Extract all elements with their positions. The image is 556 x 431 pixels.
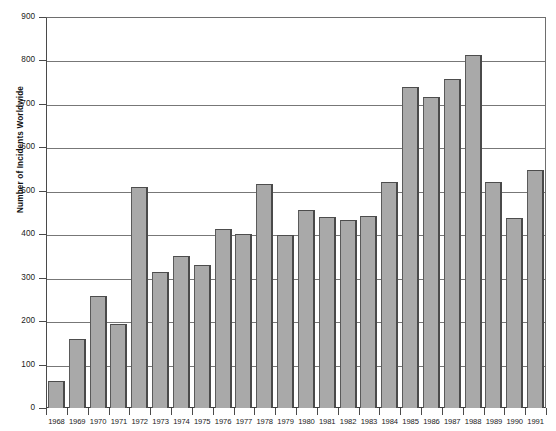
x-axis-tick-mark xyxy=(67,408,68,415)
bar-1973 xyxy=(152,272,169,408)
x-axis-tick-mark xyxy=(150,408,151,415)
y-axis-tick-mark xyxy=(39,408,46,409)
x-axis-tick-mark xyxy=(192,408,193,415)
bar-1989 xyxy=(485,182,502,408)
bar-1968 xyxy=(48,381,65,408)
bar-1979 xyxy=(277,235,294,408)
y-axis-tick-label: 400 xyxy=(1,230,35,239)
x-axis-tick-mark xyxy=(275,408,276,415)
x-axis-tick-mark xyxy=(317,408,318,415)
x-axis-tick-mark xyxy=(46,408,47,415)
bar-1974 xyxy=(173,256,190,408)
y-axis-tick-mark xyxy=(39,365,46,366)
y-axis-tick-mark xyxy=(39,104,46,105)
bar-1991 xyxy=(527,170,544,409)
bar-1984 xyxy=(381,182,398,408)
bar-1980 xyxy=(298,210,315,408)
y-axis-tick-label: 0 xyxy=(1,403,35,412)
y-axis-tick-label: 700 xyxy=(1,99,35,108)
x-axis-tick-mark xyxy=(171,408,172,415)
bar-1970 xyxy=(90,296,107,408)
bar-1982 xyxy=(340,220,357,408)
y-axis-tick-mark xyxy=(39,321,46,322)
x-axis-tick-mark xyxy=(442,408,443,415)
bar-1985 xyxy=(402,87,419,408)
y-axis-tick-label: 600 xyxy=(1,143,35,152)
bar-1987 xyxy=(444,79,461,408)
bar-1990 xyxy=(506,218,523,408)
bar-1986 xyxy=(423,97,440,408)
bar-1969 xyxy=(69,339,86,408)
y-axis-tick-mark xyxy=(39,278,46,279)
bar-1972 xyxy=(131,187,148,408)
bar-1981 xyxy=(319,217,336,408)
y-axis-tick-label: 200 xyxy=(1,317,35,326)
y-axis-tick-mark xyxy=(39,191,46,192)
x-axis-tick-mark xyxy=(421,408,422,415)
x-axis-tick-mark xyxy=(234,408,235,415)
x-axis-tick-mark xyxy=(525,408,526,415)
y-axis-tick-label: 500 xyxy=(1,186,35,195)
bar-1978 xyxy=(256,184,273,408)
bar-chart: Number of Incidents Worldwide 0100200300… xyxy=(0,0,556,431)
bar-1976 xyxy=(215,229,232,408)
x-axis-tick-mark xyxy=(400,408,401,415)
x-axis-tick-label: 1991 xyxy=(521,417,551,426)
y-axis-tick-label: 900 xyxy=(1,12,35,21)
x-axis-tick-mark xyxy=(254,408,255,415)
x-axis-tick-mark xyxy=(359,408,360,415)
x-axis-tick-mark xyxy=(213,408,214,415)
y-axis-tick-mark xyxy=(39,147,46,148)
y-axis-tick-mark xyxy=(39,60,46,61)
x-axis-tick-mark xyxy=(109,408,110,415)
bar-1971 xyxy=(110,324,127,408)
bar-1988 xyxy=(465,55,482,408)
y-axis-tick-mark xyxy=(39,17,46,18)
y-axis-tick-label: 800 xyxy=(1,56,35,65)
x-axis-tick-mark xyxy=(296,408,297,415)
bars-layer xyxy=(46,17,546,408)
x-axis-tick-mark xyxy=(379,408,380,415)
x-axis-tick-mark xyxy=(88,408,89,415)
x-axis-tick-mark xyxy=(463,408,464,415)
y-axis-tick-label: 100 xyxy=(1,360,35,369)
x-axis-tick-mark xyxy=(129,408,130,415)
x-axis-tick-mark xyxy=(484,408,485,415)
bar-1983 xyxy=(360,216,377,408)
bar-1975 xyxy=(194,265,211,408)
bar-1977 xyxy=(235,234,252,408)
y-axis-tick-mark xyxy=(39,234,46,235)
x-axis-tick-mark xyxy=(338,408,339,415)
x-axis-tick-mark xyxy=(546,408,547,415)
x-axis-tick-mark xyxy=(504,408,505,415)
y-axis-tick-label: 300 xyxy=(1,273,35,282)
